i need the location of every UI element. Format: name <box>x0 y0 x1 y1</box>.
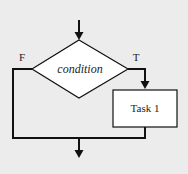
exit-arrow <box>75 138 84 158</box>
process-label: Task 1 <box>131 102 160 114</box>
true-path-arrow <box>128 69 150 89</box>
flowchart: condition F T Task 1 <box>0 0 188 174</box>
false-branch-label: F <box>19 51 25 63</box>
task-exit-line <box>79 127 145 138</box>
true-branch-label: T <box>133 51 140 63</box>
decision-label: condition <box>57 62 102 76</box>
entry-arrow <box>75 20 84 40</box>
